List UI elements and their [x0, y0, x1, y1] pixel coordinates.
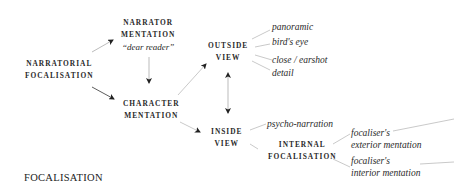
- node-line: FOCALISATION: [268, 151, 337, 163]
- node-line: NARRATORIAL: [25, 58, 94, 70]
- connector-detail: [252, 61, 270, 70]
- node-line: INTERNAL: [268, 139, 337, 151]
- node-line: CHARACTER: [123, 98, 180, 110]
- connector-birds-eye: [255, 44, 270, 47]
- node-subtitle: “dear reader”: [121, 41, 175, 53]
- node-line: MENTATION: [123, 110, 180, 122]
- arrow-narratorial-to-narrator: [92, 40, 113, 52]
- trailing-line-interior: [420, 162, 454, 164]
- leaf-line: exterior mentation: [351, 139, 421, 151]
- focalisation-diagram: NARRATORIAL FOCALISATION NARRATOR MENTAT…: [0, 0, 454, 190]
- leaf-detail: detail: [272, 67, 294, 79]
- node-line: VIEW: [208, 52, 248, 64]
- leaf-interior-mentation: focaliser's interior mentation: [351, 155, 420, 179]
- arrow-character-to-outside: [178, 64, 206, 95]
- arrow-character-to-inside: [180, 122, 200, 132]
- node-line: FOCALISATION: [25, 70, 94, 82]
- connector-psycho-narration: [250, 124, 266, 130]
- leaf-panoramic: panoramic: [272, 21, 313, 33]
- connector-panoramic: [252, 30, 270, 39]
- node-narrator-mentation: NARRATOR MENTATION “dear reader”: [121, 17, 175, 53]
- leaf-birds-eye: bird's eye: [272, 36, 308, 48]
- node-internal-focalisation: INTERNAL FOCALISATION: [268, 139, 337, 163]
- connector-close: [255, 55, 272, 60]
- arrow-narratorial-to-character: [92, 87, 114, 99]
- node-outside-view: OUTSIDE VIEW: [208, 40, 248, 64]
- leaf-line: focaliser's: [351, 127, 421, 139]
- leaf-line: interior mentation: [351, 167, 420, 179]
- leaf-line: focaliser's: [351, 155, 420, 167]
- leaf-psycho-narration: psycho-narration: [267, 118, 333, 130]
- node-inside-view: INSIDE VIEW: [211, 126, 242, 150]
- diagram-caption: FOCALISATION: [24, 172, 103, 183]
- node-line: INSIDE: [211, 126, 242, 138]
- node-line: OUTSIDE: [208, 40, 248, 52]
- node-line: NARRATOR: [121, 17, 175, 29]
- node-line: MENTATION: [121, 29, 175, 41]
- node-narratorial-focalisation: NARRATORIAL FOCALISATION: [25, 58, 94, 82]
- connector-internal-focalisation: [250, 144, 258, 149]
- node-character-mentation: CHARACTER MENTATION: [123, 98, 180, 122]
- leaf-close-earshot: close / earshot: [272, 54, 327, 66]
- node-line: VIEW: [211, 138, 242, 150]
- leaf-exterior-mentation: focaliser's exterior mentation: [351, 127, 421, 151]
